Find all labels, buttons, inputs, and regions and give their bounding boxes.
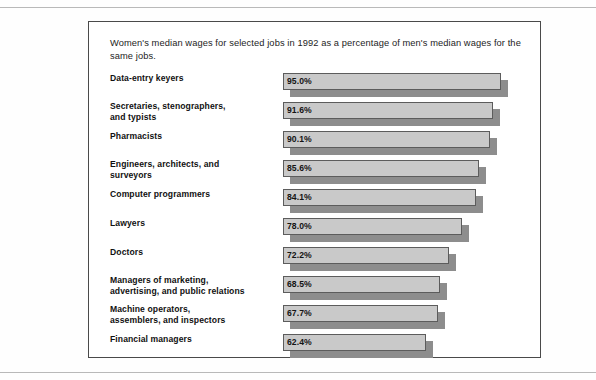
bar-value-label: 62.4% bbox=[287, 337, 312, 347]
bar-category-label: Secretaries, stenographers,and typists bbox=[110, 101, 280, 122]
bar-face bbox=[283, 102, 493, 119]
page-rule-bottom bbox=[0, 372, 596, 373]
bar-category-label-line2: surveyors bbox=[110, 170, 280, 181]
page-rule-top bbox=[0, 7, 596, 8]
bar: 95.0% bbox=[283, 73, 501, 98]
bar-category-label-line2: advertising, and public relations bbox=[110, 286, 280, 297]
bar-category-label-line2: and typists bbox=[110, 112, 280, 123]
bar-value-label: 67.7% bbox=[287, 308, 312, 318]
bar-category-label-line1: Financial managers bbox=[110, 334, 280, 345]
bar-face bbox=[283, 73, 501, 90]
bar-category-label: Managers of marketing,advertising, and p… bbox=[110, 275, 280, 296]
bar-category-label-line1: Engineers, architects, and bbox=[110, 159, 280, 170]
bar-category-label: Financial managers bbox=[110, 334, 280, 345]
bar: 85.6% bbox=[283, 160, 479, 185]
bar-category-label: Machine operators,assemblers, and inspec… bbox=[110, 304, 280, 325]
bar-category-label: Lawyers bbox=[110, 218, 280, 229]
bar-value-label: 68.5% bbox=[287, 279, 312, 289]
bar-category-label: Data-entry keyers bbox=[110, 73, 280, 84]
bar: 68.5% bbox=[283, 276, 440, 301]
bar-category-label-line1: Pharmacists bbox=[110, 131, 280, 142]
bar-row: Lawyers78.0% bbox=[89, 218, 542, 247]
bar-value-label: 72.2% bbox=[287, 250, 312, 260]
bar: 91.6% bbox=[283, 102, 493, 127]
bar-value-label: 90.1% bbox=[287, 134, 312, 144]
bar-row: Engineers, architects, andsurveyors85.6% bbox=[89, 160, 542, 189]
bar-value-label: 95.0% bbox=[287, 76, 312, 86]
bar-category-label: Pharmacists bbox=[110, 131, 280, 142]
bar-row: Computer programmers84.1% bbox=[89, 189, 542, 218]
bar: 62.4% bbox=[283, 334, 426, 359]
bar-value-label: 78.0% bbox=[287, 221, 312, 231]
bar-row: Data-entry keyers95.0% bbox=[89, 73, 542, 102]
figure-caption: Women's median wages for selected jobs i… bbox=[110, 37, 526, 62]
bar: 90.1% bbox=[283, 131, 490, 156]
bar-value-label: 91.6% bbox=[287, 105, 312, 115]
bar: 67.7% bbox=[283, 305, 438, 330]
bar-category-label-line1: Computer programmers bbox=[110, 189, 280, 200]
bar-row: Secretaries, stenographers,and typists91… bbox=[89, 102, 542, 131]
bar-value-label: 85.6% bbox=[287, 163, 312, 173]
bar-category-label: Doctors bbox=[110, 247, 280, 258]
bar-category-label-line1: Machine operators, bbox=[110, 304, 280, 315]
bar-category-label: Engineers, architects, andsurveyors bbox=[110, 159, 280, 180]
bar-row: Doctors72.2% bbox=[89, 247, 542, 276]
bar: 78.0% bbox=[283, 218, 462, 243]
bar: 84.1% bbox=[283, 189, 476, 214]
figure-frame: Women's median wages for selected jobs i… bbox=[88, 21, 541, 358]
bar-category-label-line1: Lawyers bbox=[110, 218, 280, 229]
bar-face bbox=[283, 160, 479, 177]
bar-face bbox=[283, 131, 490, 148]
bar-category-label-line2: assemblers, and inspectors bbox=[110, 315, 280, 326]
bar-category-label-line1: Managers of marketing, bbox=[110, 275, 280, 286]
bar-category-label-line1: Secretaries, stenographers, bbox=[110, 101, 280, 112]
bar-value-label: 84.1% bbox=[287, 192, 312, 202]
bar: 72.2% bbox=[283, 247, 449, 272]
bar-row: Financial managers62.4% bbox=[89, 334, 542, 363]
bar-category-label: Computer programmers bbox=[110, 189, 280, 200]
bar-category-label-line1: Data-entry keyers bbox=[110, 73, 280, 84]
bar-row: Pharmacists90.1% bbox=[89, 131, 542, 160]
bar-category-label-line1: Doctors bbox=[110, 247, 280, 258]
bar-row: Machine operators,assemblers, and inspec… bbox=[89, 305, 542, 334]
bar-chart: Data-entry keyers95.0%Secretaries, steno… bbox=[89, 73, 542, 363]
bar-row: Managers of marketing,advertising, and p… bbox=[89, 276, 542, 305]
